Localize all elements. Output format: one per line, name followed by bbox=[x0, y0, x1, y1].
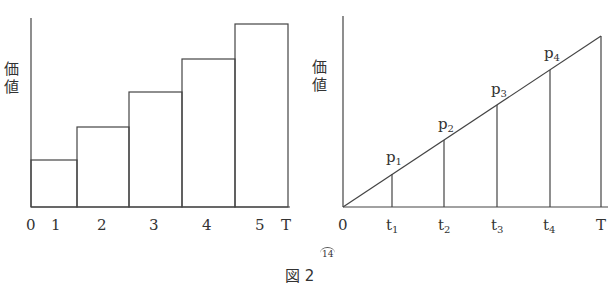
right-x-label: T bbox=[596, 218, 606, 233]
right-x-label: t1 bbox=[386, 218, 398, 235]
right-x-label: t4 bbox=[543, 218, 555, 235]
caption-text: 図 2 bbox=[285, 267, 314, 285]
point-label-p1: p1 bbox=[386, 150, 402, 167]
bar-2 bbox=[77, 127, 129, 207]
right-y-label: 価 値 bbox=[312, 58, 328, 94]
right-x-label: t2 bbox=[438, 218, 450, 235]
bar-4 bbox=[182, 59, 235, 207]
bar-3 bbox=[129, 92, 182, 207]
right-x-label: t3 bbox=[491, 218, 503, 235]
point-label-p4: p4 bbox=[544, 46, 560, 63]
left-y-label-char: 価 bbox=[4, 60, 20, 78]
point-label-p2: p2 bbox=[438, 117, 454, 134]
note-marker: 14 bbox=[320, 247, 335, 259]
left-x-label: T bbox=[281, 218, 291, 233]
figure-caption: 図 2 bbox=[285, 264, 314, 285]
left-x-label: 4 bbox=[202, 218, 212, 233]
left-x-label: 3 bbox=[149, 218, 159, 233]
note-marker-text: 14 bbox=[322, 249, 333, 259]
left-y-label: 価 値 bbox=[4, 60, 20, 96]
point-label-p3: p3 bbox=[491, 82, 507, 99]
right-x-label: 0 bbox=[338, 218, 348, 233]
left-x-label: 0 bbox=[26, 218, 36, 233]
bar-1 bbox=[31, 160, 77, 207]
figure-canvas bbox=[0, 0, 608, 300]
left-x-label: 2 bbox=[97, 218, 107, 233]
bar-5 bbox=[235, 24, 288, 207]
left-y-label-char: 値 bbox=[4, 78, 20, 96]
right-y-label-char: 価 bbox=[312, 58, 328, 76]
left-x-label: 1 bbox=[51, 218, 61, 233]
left-x-label: 5 bbox=[255, 218, 265, 233]
value-line bbox=[343, 36, 601, 207]
right-y-label-char: 値 bbox=[312, 76, 328, 94]
